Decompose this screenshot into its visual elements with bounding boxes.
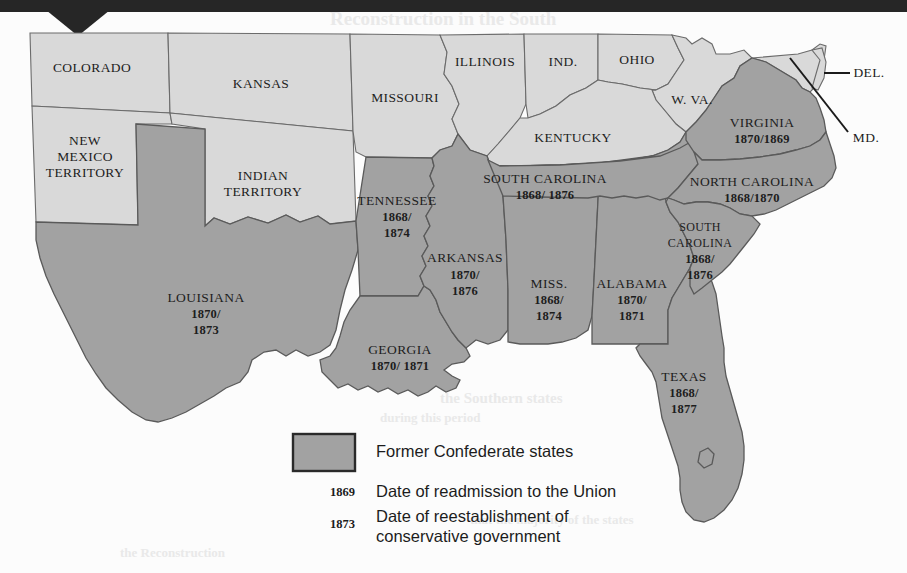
state-label-kentucky: KENTUCKY [534, 130, 611, 145]
legend-label-conservative-l1: Date of reestablishment of [376, 507, 569, 525]
state-label-alabama-d1: 1868/ [534, 293, 564, 307]
state-label-georgia-d1: 1870/ [617, 293, 647, 307]
state-label-mississippi-d1: 1870/ [450, 268, 480, 282]
state-label-louisiana-name: GEORGIA [368, 342, 432, 357]
state-label-new-mexico-l3: TERRITORY [46, 165, 124, 180]
state-label-south-carolina-d1: 1868/ [685, 252, 715, 266]
state-label-alabama-name: MISS. [531, 276, 568, 291]
state-label-mississippi-name: ARKANSAS [427, 250, 503, 265]
state-label-illinois: ILLINOIS [455, 54, 515, 69]
state-label-texas-d2: 1873 [193, 323, 219, 337]
legend-label-readmission: Date of readmission to the Union [376, 482, 616, 500]
state-label-mississippi-d2: 1876 [452, 284, 478, 298]
state-label-georgia-d2: 1871 [619, 309, 645, 323]
state-label-virginia-name: VIRGINIA [730, 115, 795, 130]
state-label-louisiana-dates: 1870/ 1871 [371, 359, 430, 373]
legend-swatch-confederate [293, 434, 355, 471]
state-label-maryland: MD. [853, 130, 879, 145]
map-page: Reconstruction in the South the Southern… [0, 0, 907, 573]
state-label-new-mexico-l1: NEW [69, 133, 101, 148]
state-label-indiana: IND. [549, 54, 578, 69]
state-label-alabama-d2: 1874 [536, 309, 562, 323]
state-label-ohio: OHIO [619, 52, 654, 67]
state-label-kansas: KANSAS [233, 76, 289, 91]
us-reconstruction-map: COLORADO KANSAS MISSOURI ILLINOIS IND. O… [0, 0, 907, 573]
state-label-arkansas-name: TENNESSEE [357, 193, 436, 208]
map-legend: Former Confederate states 1869 Date of r… [293, 434, 616, 545]
state-label-north-carolina-dates: 1868/1870 [724, 191, 779, 205]
state-label-tennessee-dates: 1868/ 1876 [516, 188, 575, 202]
legend-key-readmission: 1869 [330, 485, 355, 499]
state-label-indian-territory-l2: TERRITORY [224, 184, 302, 199]
legend-key-conservative: 1873 [330, 517, 355, 531]
state-label-missouri: MISSOURI [371, 90, 439, 105]
state-label-texas-name: LOUISIANA [167, 290, 244, 305]
state-label-south-carolina-d2: 1876 [687, 268, 713, 282]
state-label-tennessee-name: SOUTH CAROLINA [483, 171, 607, 186]
legend-label-conservative-l2: conservative government [376, 527, 561, 545]
state-label-south-carolina-l2: CAROLINA [668, 236, 732, 250]
state-label-new-mexico-l2: MEXICO [57, 149, 113, 164]
state-label-georgia-name: ALABAMA [596, 276, 667, 291]
state-label-virginia-dates: 1870/1869 [734, 132, 789, 146]
state-label-florida-d2: 1877 [671, 402, 697, 416]
state-label-arkansas-d2: 1874 [384, 226, 410, 240]
state-label-arkansas-d1: 1868/ [382, 210, 412, 224]
state-label-indian-territory-l1: INDIAN [238, 168, 288, 183]
state-label-florida-name: TEXAS [661, 369, 707, 384]
state-label-colorado: COLORADO [53, 60, 131, 75]
state-label-west-virginia: W. VA. [671, 92, 713, 107]
state-label-delaware: DEL. [853, 65, 884, 80]
state-label-north-carolina-name: NORTH CAROLINA [690, 174, 814, 189]
state-label-texas-d1: 1870/ [191, 307, 221, 321]
state-label-south-carolina-l1: SOUTH [679, 220, 721, 234]
state-label-florida-d1: 1868/ [669, 386, 699, 400]
legend-label-confederate: Former Confederate states [376, 442, 573, 460]
